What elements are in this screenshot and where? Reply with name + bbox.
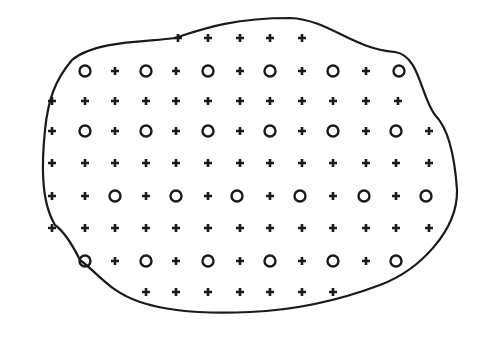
plus-icon [362, 159, 370, 167]
plus-icon [172, 159, 180, 167]
plus-icon [48, 159, 56, 167]
circle-icon [232, 191, 243, 202]
circle-icon [328, 126, 339, 137]
circle-icon [359, 191, 370, 202]
plus-icon [172, 97, 180, 105]
plus-icon [266, 97, 274, 105]
plus-icon [425, 159, 433, 167]
plus-icon [204, 159, 212, 167]
plus-icon [142, 224, 150, 232]
plus-icon [236, 97, 244, 105]
circle-icon [171, 191, 182, 202]
plus-icon [111, 127, 119, 135]
plus-icon [394, 97, 402, 105]
plus-icon [111, 257, 119, 265]
circle-icon [110, 191, 121, 202]
plus-icon [298, 34, 306, 42]
plus-icon [142, 192, 150, 200]
circle-icon [328, 256, 339, 267]
plus-icon [298, 97, 306, 105]
plus-icon [236, 224, 244, 232]
circle-icon [141, 256, 152, 267]
plus-icon [81, 224, 89, 232]
plus-icon [298, 159, 306, 167]
circle-icon [391, 256, 402, 267]
plus-icon [329, 224, 337, 232]
plus-icon [111, 224, 119, 232]
plus-icon [362, 67, 370, 75]
plus-icon [329, 192, 337, 200]
plus-icon [142, 159, 150, 167]
diagram-canvas [0, 0, 484, 337]
plus-icon [266, 224, 274, 232]
plus-icon [172, 288, 180, 296]
plus-icon [81, 97, 89, 105]
plus-icon [236, 127, 244, 135]
plus-icon [425, 224, 433, 232]
plus-icon [392, 224, 400, 232]
plus-icon [81, 159, 89, 167]
plus-icon [236, 288, 244, 296]
symbol-lattice [48, 34, 433, 296]
circle-icon [421, 191, 432, 202]
plus-icon [362, 97, 370, 105]
circle-icon [265, 66, 276, 77]
plus-icon [266, 288, 274, 296]
plus-icon [392, 159, 400, 167]
plus-icon [204, 224, 212, 232]
circle-icon [203, 256, 214, 267]
plus-icon [142, 97, 150, 105]
circle-icon [80, 126, 91, 137]
circle-icon [265, 126, 276, 137]
plus-icon [298, 288, 306, 296]
plus-icon [172, 257, 180, 265]
plus-icon [81, 192, 89, 200]
plus-icon [204, 97, 212, 105]
plus-icon [298, 67, 306, 75]
circle-icon [328, 66, 339, 77]
plus-icon [111, 159, 119, 167]
circle-icon [80, 66, 91, 77]
plus-icon [236, 159, 244, 167]
circle-icon [141, 126, 152, 137]
plus-icon [298, 257, 306, 265]
plus-icon [142, 288, 150, 296]
circle-icon [203, 126, 214, 137]
plus-icon [236, 67, 244, 75]
plus-icon [172, 127, 180, 135]
plus-icon [329, 159, 337, 167]
plus-icon [425, 127, 433, 135]
plus-icon [329, 97, 337, 105]
plus-icon [204, 192, 212, 200]
circle-icon [203, 66, 214, 77]
circle-icon [265, 256, 276, 267]
plus-icon [362, 257, 370, 265]
circle-icon [394, 66, 405, 77]
plus-icon [329, 288, 337, 296]
plus-icon [266, 159, 274, 167]
plus-icon [362, 127, 370, 135]
plus-icon [298, 224, 306, 232]
plus-icon [204, 34, 212, 42]
plus-icon [392, 192, 400, 200]
plus-icon [236, 257, 244, 265]
plus-icon [236, 34, 244, 42]
plus-icon [111, 67, 119, 75]
plus-icon [266, 192, 274, 200]
plus-icon [362, 224, 370, 232]
plus-icon [172, 67, 180, 75]
plus-icon [48, 127, 56, 135]
circle-icon [391, 126, 402, 137]
plus-icon [204, 288, 212, 296]
plus-icon [48, 192, 56, 200]
plus-icon [266, 34, 274, 42]
plus-icon [298, 127, 306, 135]
plus-icon [111, 97, 119, 105]
circle-icon [141, 66, 152, 77]
plus-icon [172, 224, 180, 232]
circle-icon [295, 191, 306, 202]
